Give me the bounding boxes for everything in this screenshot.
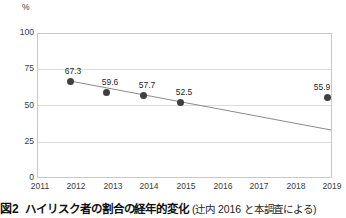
x-tick-label-2014: 2014 <box>132 181 166 192</box>
data-label-2015: 52.5 <box>166 87 202 97</box>
data-marker-2015[interactable] <box>177 99 184 106</box>
x-tick-label-2018: 2018 <box>279 181 313 192</box>
data-marker-2013[interactable] <box>103 89 110 96</box>
x-tick-label-2019: 2019 <box>315 181 346 192</box>
data-marker-2012[interactable] <box>67 78 74 85</box>
trendline <box>0 0 341 200</box>
x-axis-tick-labels: 2011 2012 2013 2014 2015 2016 2017 2018 … <box>37 181 332 195</box>
x-tick-label-2011: 2011 <box>23 181 57 192</box>
figure-caption-number: 図2 <box>0 202 18 216</box>
x-tick-label-2016: 2016 <box>206 181 240 192</box>
data-label-2014: 57.7 <box>129 80 165 90</box>
x-tick-label-2015: 2015 <box>169 181 203 192</box>
x-tick-label-2012: 2012 <box>59 181 93 192</box>
data-marker-2019[interactable] <box>324 94 331 101</box>
figure-caption-source: (辻内 2016 と本調査による) <box>189 202 317 216</box>
data-label-2019: 55.9 <box>304 82 340 92</box>
chart-area: % 100 75 50 25 0 67.3 59.6 57.7 52.5 <box>0 0 341 200</box>
x-tick-label-2017: 2017 <box>242 181 276 192</box>
figure-caption-title: ハイリスク者の割合の経年的変化 <box>18 202 189 216</box>
data-marker-2014[interactable] <box>140 92 147 99</box>
data-label-2012: 67.3 <box>55 66 91 76</box>
x-tick-label-2013: 2013 <box>96 181 130 192</box>
data-label-2013: 59.6 <box>92 77 128 87</box>
figure-caption: 図2 ハイリスク者の割合の経年的変化 (辻内 2016 と本調査による) <box>0 199 341 218</box>
